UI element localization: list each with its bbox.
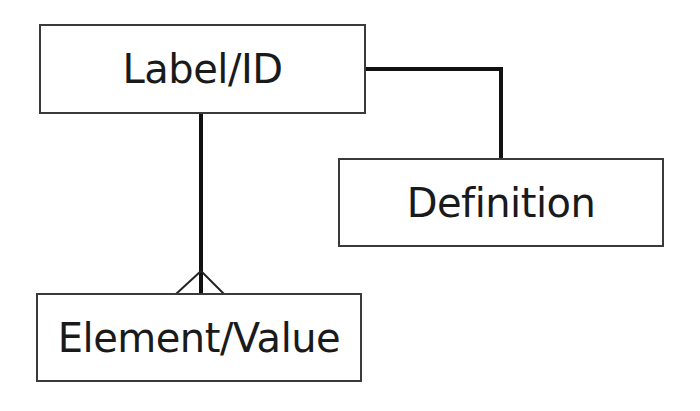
entity-element-value-text: Element/Value <box>58 315 340 361</box>
connector-label-definition <box>365 69 501 159</box>
entity-definition: Definition <box>338 158 664 247</box>
er-diagram: Label/ID Definition Element/Value <box>0 0 700 411</box>
entity-label-id: Label/ID <box>39 24 366 114</box>
entity-element-value: Element/Value <box>36 293 362 382</box>
entity-definition-text: Definition <box>407 180 596 226</box>
entity-label-id-text: Label/ID <box>123 46 283 92</box>
